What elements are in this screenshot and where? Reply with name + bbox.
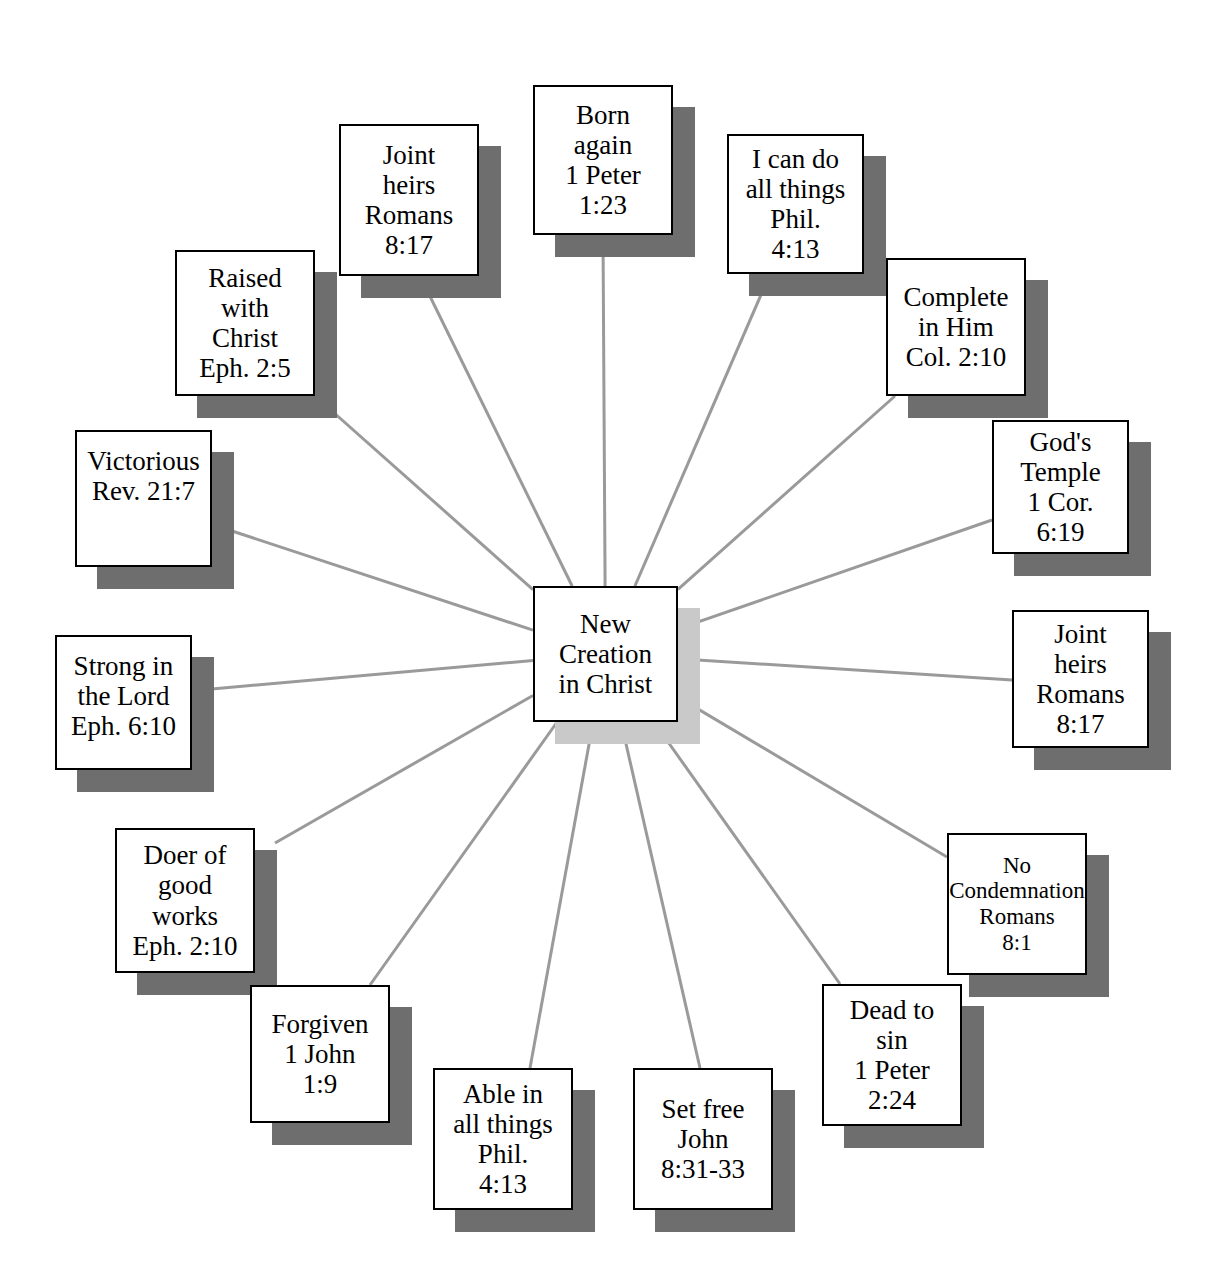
- node-raised-with-christ[interactable]: RaisedwithChristEph. 2:5: [175, 250, 315, 396]
- center-node-line: in Christ: [559, 669, 653, 699]
- node-line: Condemnation: [949, 878, 1084, 904]
- node-line: 1 John: [284, 1039, 355, 1069]
- connector-raised-with-christ: [315, 396, 533, 590]
- node-line: Eph. 2:5: [199, 353, 291, 383]
- node-line: 1 Cor.: [1027, 487, 1093, 517]
- node-line: Phil.: [478, 1139, 528, 1169]
- node-line: the Lord: [77, 681, 169, 711]
- node-line: 1:9: [303, 1069, 338, 1099]
- node-line: Born: [576, 100, 630, 130]
- node-line: 1 Peter: [854, 1055, 930, 1085]
- node-line: Complete: [904, 282, 1009, 312]
- node-line: 1:23: [579, 190, 627, 220]
- node-line: sin: [876, 1025, 908, 1055]
- node-line: Set free: [661, 1094, 744, 1124]
- center-node[interactable]: NewCreationin Christ: [533, 586, 678, 722]
- connector-forgiven: [370, 722, 557, 985]
- node-line: Eph. 6:10: [71, 711, 176, 741]
- node-gods-temple[interactable]: God'sTemple1 Cor.6:19: [992, 420, 1129, 554]
- node-line: Temple: [1020, 457, 1101, 487]
- connector-complete-in-him: [678, 396, 895, 589]
- connector-i-can-do-all-things: [635, 274, 770, 586]
- connector-strong-in-the-lord: [212, 660, 533, 689]
- node-joint-heirs-right[interactable]: JointheirsRomans8:17: [1012, 610, 1149, 748]
- node-line: Joint: [1054, 619, 1107, 649]
- node-no-condemnation[interactable]: NoCondemnationRomans8:1: [947, 833, 1087, 975]
- node-line: Victorious: [87, 446, 199, 476]
- node-line: Raised: [208, 263, 282, 293]
- node-line: I can do: [752, 144, 839, 174]
- node-line: Able in: [463, 1079, 543, 1109]
- connector-dead-to-sin: [654, 722, 840, 984]
- node-line: all things: [746, 174, 846, 204]
- node-i-can-do-all-things[interactable]: I can doall thingsPhil.4:13: [727, 134, 864, 274]
- node-line: Romans: [365, 200, 454, 230]
- node-line: Joint: [383, 140, 436, 170]
- node-line: good: [158, 870, 212, 900]
- node-line: Christ: [212, 323, 278, 353]
- node-line: all things: [453, 1109, 553, 1139]
- connector-doer-of-good-works: [275, 695, 533, 843]
- node-line: Dead to: [850, 995, 935, 1025]
- node-line: 8:31-33: [661, 1154, 745, 1184]
- node-line: works: [152, 901, 218, 931]
- node-line: John: [677, 1124, 728, 1154]
- node-line: 4:13: [771, 234, 819, 264]
- node-line: God's: [1030, 427, 1092, 457]
- node-line: Eph. 2:10: [133, 931, 238, 961]
- node-born-again[interactable]: Bornagain1 Peter1:23: [533, 85, 673, 235]
- connector-joint-heirs-top: [420, 276, 572, 586]
- connector-no-condemnation: [678, 697, 947, 857]
- node-line: Romans: [1036, 679, 1125, 709]
- node-line: Strong in: [74, 651, 174, 681]
- node-set-free[interactable]: Set freeJohn8:31-33: [633, 1068, 773, 1210]
- node-line: 6:19: [1036, 517, 1084, 547]
- node-line: Romans: [979, 904, 1054, 930]
- node-line: 8:1: [1002, 930, 1031, 956]
- center-node-line: Creation: [559, 639, 652, 669]
- connector-set-free: [621, 722, 700, 1068]
- node-line: 8:17: [1056, 709, 1104, 739]
- node-strong-in-the-lord[interactable]: Strong inthe LordEph. 6:10: [55, 635, 192, 770]
- node-victorious[interactable]: VictoriousRev. 21:7: [75, 430, 212, 567]
- connector-gods-temple: [678, 520, 992, 629]
- node-line: with: [221, 293, 269, 323]
- node-doer-of-good-works[interactable]: Doer ofgoodworksEph. 2:10: [115, 828, 255, 973]
- connector-able-in-all-things: [530, 722, 593, 1068]
- connector-victorious: [232, 531, 533, 630]
- node-line: Col. 2:10: [906, 342, 1007, 372]
- node-line: again: [574, 130, 632, 160]
- node-dead-to-sin[interactable]: Dead tosin1 Peter2:24: [822, 984, 962, 1126]
- node-complete-in-him[interactable]: Completein HimCol. 2:10: [886, 258, 1026, 396]
- node-line: Phil.: [770, 204, 820, 234]
- node-line: 2:24: [868, 1085, 916, 1115]
- node-line: Doer of: [143, 840, 226, 870]
- node-line: 8:17: [385, 230, 433, 260]
- connector-born-again: [603, 235, 605, 586]
- node-able-in-all-things[interactable]: Able inall thingsPhil.4:13: [433, 1068, 573, 1210]
- node-line: in Him: [918, 312, 994, 342]
- node-line: heirs: [1054, 649, 1106, 679]
- node-line: 1 Peter: [565, 160, 641, 190]
- connector-joint-heirs-right: [678, 659, 1012, 680]
- node-line: Rev. 21:7: [92, 476, 195, 506]
- node-line: No: [1003, 853, 1031, 879]
- node-forgiven[interactable]: Forgiven1 John1:9: [250, 985, 390, 1123]
- node-joint-heirs-top[interactable]: JointheirsRomans8:17: [339, 124, 479, 276]
- node-line: Forgiven: [271, 1009, 368, 1039]
- diagram-canvas: NewCreationin Christ Bornagain1 Peter1:2…: [0, 0, 1227, 1287]
- node-line: 4:13: [479, 1169, 527, 1199]
- node-line: heirs: [383, 170, 435, 200]
- center-node-line: New: [580, 609, 631, 639]
